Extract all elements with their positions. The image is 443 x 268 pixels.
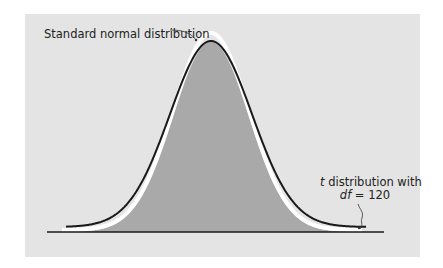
t-distribution-fill xyxy=(80,42,345,232)
t-label-leader xyxy=(358,204,363,229)
t-distribution-label: t distribution with df = 120 xyxy=(320,176,410,202)
t-label-line2: = 120 xyxy=(351,188,390,202)
t-label-line1: distribution with xyxy=(325,175,422,189)
df-symbol: df xyxy=(340,188,351,202)
normal-distribution-label: Standard normal distribution xyxy=(44,28,209,41)
